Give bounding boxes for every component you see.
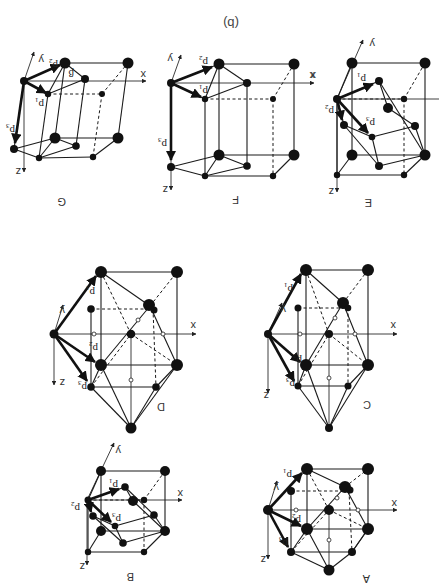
panel-c: x y z p1 p2 p3 C [264,264,398,432]
p1-label: p1 [109,477,119,492]
z-axis-label: z [261,554,267,566]
panel-label-c: C [363,399,371,411]
p3-label: p3 [366,115,376,130]
y-axis-label: y [115,445,121,457]
p3-label: p3 [279,535,289,550]
panel-label-e: E [365,197,372,209]
beta-label: β [68,68,74,80]
y-axis-label: y [167,53,173,65]
panel-label-g: G [57,196,66,208]
z-axis-label: z [264,390,270,402]
panel-label-d: D [157,401,165,413]
x-axis-label: x [391,498,397,510]
x-axis-label: x [177,488,183,500]
p3-label: p3 [78,379,88,394]
x-axis-label: x [140,69,146,81]
panel-f: x y z p2 p1 p3 F [158,53,316,206]
y-axis-label: y [59,305,65,317]
p1-label: p1 [357,71,367,86]
panel-d: x y z p1 p2 p3 D [50,266,197,434]
x-axis-label: x [390,320,396,332]
p2-label: p2 [325,103,335,118]
z-axis-label: z [163,184,169,196]
p2-label: p2 [199,54,209,69]
p2-label: p2 [293,352,303,367]
p3-label: p3 [6,122,16,137]
z-axis-label: z [80,561,86,573]
y-axis-label: y [273,482,279,494]
y-axis-label: y [369,38,375,50]
y-axis-label: y [38,54,44,66]
y-axis-label: y [280,304,286,316]
vector-p3 [15,81,24,143]
panel-a: x y z p1 p2 p3 A [261,463,398,585]
p2-label: p2 [89,340,99,355]
p3-label: p3 [158,136,168,151]
panel-label-b: B [127,571,134,583]
z-axis-label: z [16,166,22,178]
panel-g: x y z p2 p1 p3 β G [6,52,147,208]
panel-label-a: A [362,573,370,585]
z-axis-label: z [329,186,335,198]
panel-b: x y z p1 p2 p3 B [71,443,184,583]
p1-label: p1 [86,284,96,299]
p1-label: p1 [283,467,293,482]
x-axis-label: x [310,70,316,82]
z-axis-label: z [60,377,66,389]
p1-label: p1 [35,96,45,111]
figure-title: (b) [223,16,239,31]
crystal-lattice-figure: (b) [0,0,439,587]
x-axis-label: x [190,320,196,332]
p1-label: p1 [284,281,294,296]
panel-label-f: F [232,194,239,206]
p2-label: p2 [292,512,302,527]
panel-e: x y z p1 p2 p3 E [310,38,439,209]
p2-label: p2 [71,500,81,515]
